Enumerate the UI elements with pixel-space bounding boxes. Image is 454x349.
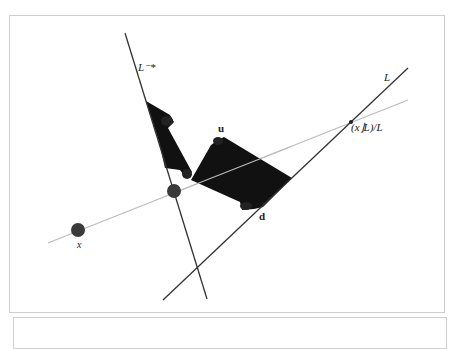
blade-rectangle-cap-top xyxy=(213,137,223,145)
label-x: x xyxy=(76,239,82,250)
label-L: L xyxy=(383,71,390,83)
point-intersection xyxy=(167,184,181,198)
joint-dot xyxy=(182,169,192,179)
label-d: d xyxy=(259,210,265,222)
label-L-star: L⁻* xyxy=(137,61,156,73)
blade-rectangle-cap-bottom xyxy=(240,202,252,210)
label-u: u xyxy=(218,122,224,134)
L-line xyxy=(163,68,408,300)
label-projection: (x⌋L)/L xyxy=(351,121,383,134)
blade-rectangle-shape xyxy=(191,137,292,210)
blade-upper-shape xyxy=(146,101,192,178)
blade-upper-cap xyxy=(161,116,173,126)
point-x xyxy=(71,223,85,237)
